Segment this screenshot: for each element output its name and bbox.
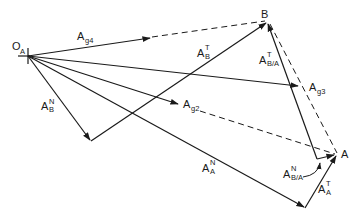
svg-text:B: B	[205, 52, 210, 61]
svg-text:A: A	[259, 54, 267, 66]
label-a-g2: A g2	[183, 98, 199, 113]
label-a-a-normal: A N A	[202, 158, 215, 176]
label-a-g3: A g3	[309, 81, 325, 96]
svg-text:g4: g4	[85, 36, 93, 45]
svg-text:N: N	[210, 158, 215, 167]
label-a-g4: A g4	[77, 30, 93, 45]
svg-text:A: A	[77, 30, 85, 42]
label-a-b-normal: A N B	[41, 97, 54, 114]
svg-text:A: A	[309, 81, 317, 93]
label-b: B	[261, 8, 268, 20]
svg-text:A: A	[41, 100, 49, 112]
svg-text:T: T	[205, 43, 210, 52]
vector-a-b-normal	[28, 56, 90, 140]
svg-text:A: A	[183, 98, 191, 110]
svg-text:A: A	[326, 188, 331, 197]
svg-text:B/A: B/A	[291, 173, 303, 182]
svg-text:A: A	[283, 168, 291, 180]
svg-text:g3: g3	[317, 87, 325, 96]
acceleration-polygon-diagram: O A B A A g4 A T B A N B A T B/A A g3 A …	[0, 0, 358, 219]
svg-text:A: A	[210, 167, 215, 176]
svg-text:B/A: B/A	[267, 59, 279, 68]
svg-text:A: A	[197, 47, 205, 59]
svg-text:B: B	[49, 105, 54, 114]
svg-text:A: A	[20, 47, 25, 56]
label-a: A	[341, 148, 349, 160]
vector-a-a-tangential	[305, 156, 336, 208]
svg-text:T: T	[267, 50, 272, 59]
label-a-ba-normal: A N B/A	[283, 164, 303, 182]
leader-a-ba-normal	[303, 163, 320, 177]
svg-text:A: A	[202, 162, 210, 174]
label-a-ba-tangential: A T B/A	[259, 50, 279, 68]
svg-text:g2: g2	[191, 104, 199, 113]
label-a-b-tangential: A T B	[197, 43, 210, 61]
vector-a-a-normal	[28, 56, 304, 207]
label-a-a-tangential: A T A	[318, 179, 331, 197]
dashed-b-to-a	[270, 24, 337, 153]
label-origin: O A	[12, 40, 25, 56]
vector-a-ba-normal	[317, 155, 334, 159]
dashed-g2-to-a	[200, 111, 335, 154]
svg-text:N: N	[291, 164, 296, 173]
svg-text:A: A	[318, 183, 326, 195]
svg-text:T: T	[326, 179, 331, 188]
vector-a-g3	[28, 56, 298, 86]
